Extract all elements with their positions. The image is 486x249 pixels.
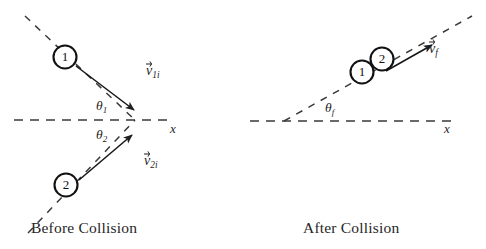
vector-symbol-v: v <box>146 64 152 78</box>
angle-label-theta1: θ1 <box>96 99 107 115</box>
caption-after-collision: After Collision <box>303 219 399 237</box>
thetaf-subscript: f <box>332 107 335 117</box>
caption-before-collision: Before Collision <box>31 219 137 237</box>
vector-label-vf: vf <box>429 40 438 58</box>
angle-label-thetaf: θf <box>325 101 334 117</box>
theta2-subscript: 2 <box>103 134 108 144</box>
vector-label-v1i: v1i <box>146 62 160 80</box>
particle-1-before-label: 1 <box>54 46 76 68</box>
diagram-canvas <box>0 0 486 249</box>
particle-2-after-label: 2 <box>371 48 393 70</box>
theta1-subscript: 1 <box>103 105 108 115</box>
particle-1-after-label: 1 <box>351 61 373 83</box>
v-glyph: v <box>144 153 150 168</box>
vector-label-v2i: v2i <box>144 152 158 170</box>
theta-glyph: θ <box>325 100 332 115</box>
trajectory-dashed-particle-1 <box>25 16 135 120</box>
theta-glyph: θ <box>96 127 103 142</box>
v2i-subscript: 2i <box>150 160 158 170</box>
x-axis-label-before: x <box>170 122 176 135</box>
theta-glyph: θ <box>96 98 103 113</box>
vector-symbol-v: v <box>144 154 150 168</box>
vector-symbol-v: v <box>429 42 435 56</box>
angle-label-theta2: θ2 <box>96 128 107 144</box>
collision-diagram: 1 2 1 2 v1i v2i vf θ1 θ2 θf <box>0 0 486 249</box>
v1i-subscript: 1i <box>152 70 160 80</box>
panel-before-collision <box>14 16 168 233</box>
v-glyph: v <box>429 41 435 56</box>
vf-subscript: f <box>435 48 438 58</box>
trajectory-dashed-particle-2 <box>28 120 135 233</box>
particle-2-before-label: 2 <box>55 174 77 196</box>
v-glyph: v <box>146 63 152 78</box>
x-axis-label-after: x <box>444 122 450 135</box>
